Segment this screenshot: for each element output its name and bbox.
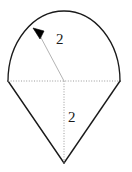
triangle-left-edge — [8, 81, 64, 163]
radius-label: 2 — [56, 32, 64, 47]
geometry-figure: 2 2 — [0, 0, 132, 172]
arrowhead-icon — [33, 28, 44, 39]
figure-canvas — [0, 0, 132, 172]
height-label: 2 — [68, 110, 76, 125]
semicircle-arc — [8, 11, 120, 81]
